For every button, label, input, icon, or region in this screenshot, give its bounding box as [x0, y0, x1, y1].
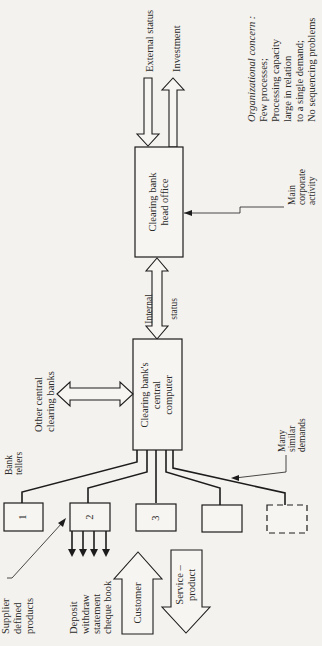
teller-5-dashed [267, 505, 307, 533]
investment-label: Investment [171, 25, 182, 72]
external-status-arrow: External status [137, 10, 159, 146]
internal-status-arrow: Internal status [144, 258, 179, 339]
product-output-arrows [68, 531, 110, 557]
svg-text:3: 3 [150, 515, 161, 520]
service-process-diagram: Organizational concern : Few processes; … [0, 0, 322, 646]
concern-line-2: Processing capacity [270, 38, 281, 122]
pointer-arrowhead-icon [184, 210, 192, 216]
central-computer-label-1: Clearing bank's [139, 362, 150, 427]
service-label-2: product [186, 569, 197, 601]
other-banks-label-1: Other central [33, 377, 44, 432]
supplier-products-annotation: Supplier defined products [0, 518, 66, 634]
service-label-1: Service – [174, 565, 185, 605]
pointer-arrowhead-icon [231, 475, 239, 481]
head-office-node: Clearing bank head office [135, 147, 183, 257]
investment-arrow: Investment [162, 25, 184, 147]
bank-tellers-annotation: Bank tellers [4, 451, 24, 475]
central-computer-label-2: central [151, 381, 162, 410]
central-computer-label-3: computer [163, 375, 174, 415]
main-activity-line-2: corporate [297, 169, 307, 205]
internal-status-label-1: Internal [144, 294, 154, 324]
supplier-line-1: Supplier [0, 598, 11, 634]
customer-label: Customer [132, 582, 143, 623]
head-office-label-1: Clearing bank [147, 172, 158, 232]
many-demands-line-3: demands [297, 418, 307, 452]
teller-nodes: 1 2 3 [4, 503, 307, 533]
supplier-line-2: defined [12, 602, 23, 634]
teller-4 [202, 505, 242, 532]
products-list: Deposit withdraw statement cheque book [68, 580, 113, 634]
main-activity-annotation: Main corporate activity [184, 169, 317, 216]
many-demands-line-2: similar [287, 425, 297, 452]
supplier-line-3: products [24, 598, 35, 634]
down-arrow-icon [137, 78, 159, 146]
head-office-label-2: head office [159, 178, 170, 225]
service-product-arrow: Service – product [162, 550, 210, 633]
external-status-label: External status [144, 10, 155, 72]
svg-text:2: 2 [84, 514, 95, 519]
internal-status-label-2: status [169, 298, 179, 320]
teller-connections [22, 450, 285, 505]
main-activity-line-3: activity [307, 176, 317, 205]
customer-arrow: Customer [114, 552, 162, 634]
bank-tellers-line-2: tellers [14, 451, 24, 475]
concern-title: Organizational concern : [246, 16, 257, 122]
concern-line-3: large in relation [282, 55, 293, 122]
teller-3: 3 [136, 504, 176, 531]
other-banks-arrow: Other central clearing banks [33, 371, 133, 432]
teller-2: 2 [70, 503, 110, 531]
concern-line-5: No sequencing problems [306, 18, 317, 122]
product-withdraw: withdraw [80, 594, 91, 634]
organizational-concern-note: Organizational concern : Few processes; … [246, 16, 317, 122]
concern-line-4: to a single demand; [294, 40, 305, 122]
many-demands-annotation: Many similar demands [231, 418, 307, 481]
concern-line-1: Few processes; [258, 58, 269, 122]
down-arrowhead-icon [68, 549, 76, 557]
up-arrow-icon [162, 78, 184, 147]
product-cheque-book: cheque book [102, 580, 113, 634]
product-statement: statement [91, 594, 102, 634]
down-arrowhead-icon [79, 549, 87, 557]
main-activity-line-1: Main [287, 185, 297, 205]
many-demands-line-1: Many [277, 430, 287, 452]
other-banks-label-2: clearing banks [45, 371, 56, 432]
product-deposit: Deposit [68, 601, 79, 634]
svg-text:1: 1 [17, 514, 28, 519]
central-computer-node: Clearing bank's central computer [133, 339, 182, 450]
down-arrowhead-icon [90, 549, 98, 557]
teller-1: 1 [4, 503, 43, 531]
horizontal-double-arrow-icon [57, 382, 133, 406]
down-arrowhead-icon [102, 549, 110, 557]
bank-tellers-line-1: Bank [4, 455, 14, 475]
